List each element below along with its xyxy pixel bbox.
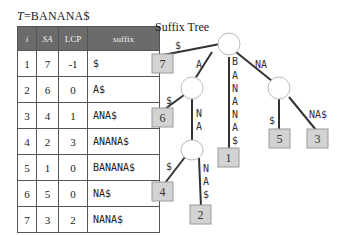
edge-label-nodeA-nodeANA-1: A — [196, 121, 202, 132]
edge-label-root-leaf1-0: B — [232, 56, 238, 67]
edge-label-root-leaf1-3: A — [232, 96, 238, 107]
leaf-label-5: 5 — [277, 132, 283, 146]
node-root — [218, 33, 240, 55]
edge-label-root-leaf7: $ — [175, 40, 181, 51]
suffix-tree-diagram: 7 6 1 4 2 5 3 $ A B A N A N A $ NA $ N A… — [0, 0, 342, 235]
tree-edges — [163, 44, 316, 207]
leaf-label-2: 2 — [198, 208, 204, 222]
edge-label-nodeANA-leaf2-2: $ — [203, 189, 209, 200]
leaf-label-4: 4 — [160, 185, 166, 199]
leaf-label-6: 6 — [160, 111, 166, 125]
edge-label-nodeANA-leaf2-0: N — [203, 163, 209, 174]
edge-label-root-leaf1-2: N — [232, 83, 238, 94]
edge-label-root-leaf1-4: N — [232, 109, 238, 120]
edge-label-root-leaf1-5: A — [232, 122, 238, 133]
edge-label-nodeNA-leaf3: NA$ — [309, 109, 327, 120]
edge-label-nodeANA-leaf4: $ — [166, 161, 172, 172]
edge-label-root-leaf1-6: $ — [232, 135, 238, 146]
node-A — [181, 77, 203, 99]
edge-label-root-leaf1-1: A — [232, 70, 238, 81]
leaf-label-1: 1 — [226, 151, 232, 165]
edge-label-nodeA-nodeANA-0: N — [196, 108, 202, 119]
leaf-label-3: 3 — [315, 132, 321, 146]
edge-labels: $ A B A N A N A $ NA $ N A $ N A $ $ NA$ — [166, 40, 327, 200]
node-NA — [268, 77, 290, 99]
leaf-nodes — [152, 54, 328, 224]
edge-label-nodeNA-leaf5: $ — [269, 115, 275, 126]
edge-nodeANA-leaf2 — [199, 158, 201, 207]
edge-label-nodeA-leaf6: $ — [166, 95, 172, 106]
edge-label-nodeANA-leaf2-1: A — [203, 176, 209, 187]
node-ANA — [181, 140, 203, 160]
edge-label-root-nodeA: A — [196, 59, 202, 70]
leaf-label-7: 7 — [160, 57, 166, 71]
edge-label-root-nodeNA: NA — [255, 59, 267, 70]
